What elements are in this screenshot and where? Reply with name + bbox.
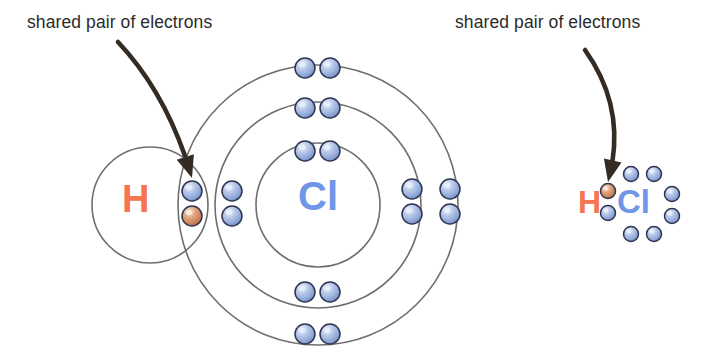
- middle-shell-electron-bottom-left: [295, 282, 315, 302]
- outer-shell-electron-bottom-right-highlight: [324, 328, 331, 333]
- lone-pair-right-upper: [665, 187, 680, 202]
- middle-shell-electron-top-right: [320, 98, 340, 118]
- middle-shell-electron-right-lower-highlight: [406, 208, 413, 213]
- shared-electron-h-highlight: [603, 187, 608, 191]
- lone-pair-bottom-right-highlight: [649, 230, 654, 234]
- chlorine-symbol-right: Cl: [617, 185, 650, 218]
- shared-electron-h: [601, 184, 616, 199]
- middle-shell-electron-left-upper: [222, 181, 242, 201]
- outer-shell-electron-bottom-left: [295, 324, 315, 344]
- middle-shell-electron-right-lower: [402, 204, 422, 224]
- diagram-graphics: [0, 0, 703, 358]
- shared-electron-cl: [182, 181, 202, 201]
- outer-shell-electron-right-upper-highlight: [444, 183, 451, 188]
- outer-shell-electron-bottom-left-highlight: [299, 328, 306, 333]
- chlorine-symbol-left: Cl: [298, 176, 338, 216]
- arrow-shaft-0: [118, 42, 185, 155]
- outer-shell-electron-top-right-highlight: [324, 62, 331, 67]
- middle-shell-electron-left-lower-highlight: [226, 210, 233, 215]
- outer-shell-electron-right-lower: [440, 204, 460, 224]
- outer-shell-electron-top-right: [320, 58, 340, 78]
- middle-shell-electron-bottom-right-highlight: [324, 286, 331, 291]
- arrow-head-1: [599, 159, 621, 184]
- inner-shell-electron-top-right-highlight: [324, 145, 331, 150]
- lone-pair-top-right: [647, 167, 662, 182]
- hydrogen-symbol-right: H: [578, 186, 601, 218]
- inner-shell-electron-top-left-highlight: [299, 145, 306, 150]
- diagram-canvas: shared pair of electrons shared pair of …: [0, 0, 703, 358]
- middle-shell-electron-left-upper-highlight: [226, 185, 233, 190]
- outer-shell-electron-right-lower-highlight: [444, 208, 451, 213]
- lone-pair-bottom-right: [647, 227, 662, 242]
- middle-shell-electron-right-upper: [402, 179, 422, 199]
- shared-electron-h-highlight: [186, 210, 193, 215]
- lone-pair-top-left: [624, 167, 639, 182]
- middle-shell-electron-top-left-highlight: [299, 102, 306, 107]
- lone-pair-right-lower: [665, 209, 680, 224]
- middle-shell-electron-top-right-highlight: [324, 102, 331, 107]
- outer-shell-electron-top-left: [295, 58, 315, 78]
- shared-electron-h: [182, 206, 202, 226]
- lone-pair-top-right-highlight: [649, 170, 654, 174]
- lone-pair-right-upper-highlight: [667, 190, 672, 194]
- arrow-shaft-1: [585, 50, 614, 162]
- middle-shell-electron-bottom-right: [320, 282, 340, 302]
- middle-shell-electron-top-left: [295, 98, 315, 118]
- annotation-arrows: [118, 42, 621, 184]
- hydrogen-symbol-left: H: [122, 180, 149, 218]
- lone-pair-top-left-highlight: [626, 170, 631, 174]
- lone-pair-right-lower-highlight: [667, 212, 672, 216]
- lone-pair-bottom-left: [624, 227, 639, 242]
- inner-shell-electron-top-left: [295, 141, 315, 161]
- outer-shell-electron-right-upper: [440, 179, 460, 199]
- shared-electron-cl: [601, 206, 616, 221]
- lone-pair-bottom-left-highlight: [626, 230, 631, 234]
- shared-electron-cl-highlight: [186, 185, 193, 190]
- outer-shell-electron-top-left-highlight: [299, 62, 306, 67]
- middle-shell-electron-left-lower: [222, 206, 242, 226]
- middle-shell-electron-bottom-left-highlight: [299, 286, 306, 291]
- outer-shell-electron-bottom-right: [320, 324, 340, 344]
- inner-shell-electron-top-right: [320, 141, 340, 161]
- middle-shell-electron-right-upper-highlight: [406, 183, 413, 188]
- shared-electron-cl-highlight: [603, 209, 608, 213]
